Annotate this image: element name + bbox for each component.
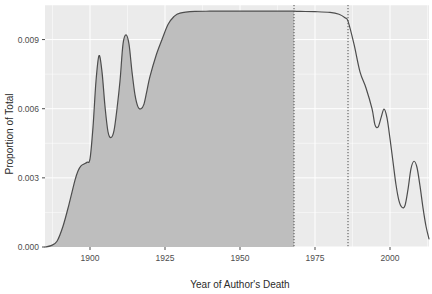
chart-canvas: 19001925195019752000 0.0000.0030.0060.00…	[0, 0, 432, 294]
x-tick-label: 1950	[231, 253, 250, 263]
x-tick-label: 1975	[306, 253, 325, 263]
x-tick-label: 2000	[381, 253, 400, 263]
x-axis-title: Year of Author's Death	[190, 279, 289, 290]
y-tick-label: 0.000	[18, 242, 40, 252]
y-axis-title: Proportion of Total	[4, 94, 15, 175]
density-chart: 19001925195019752000 0.0000.0030.0060.00…	[0, 0, 432, 294]
y-tick-label: 0.006	[18, 104, 40, 114]
x-tick-label: 1900	[81, 253, 100, 263]
y-tick-label: 0.003	[18, 173, 40, 183]
x-tick-label: 1925	[156, 253, 175, 263]
y-tick-label: 0.009	[18, 35, 40, 45]
